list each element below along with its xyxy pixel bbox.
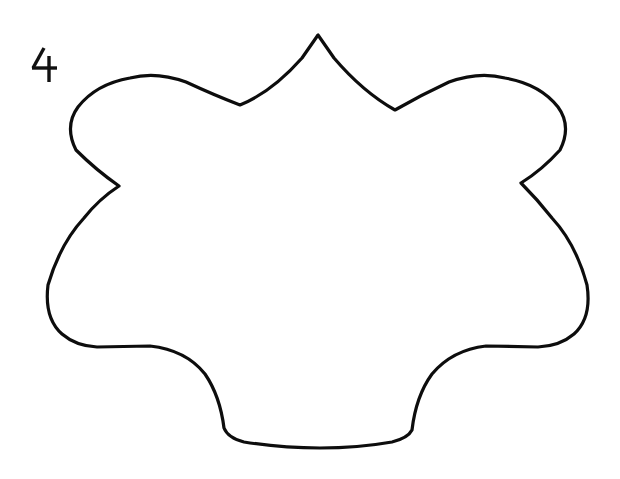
worksheet-canvas [0,0,620,479]
numeral-four-icon [30,46,60,84]
shape-drawing-area [0,0,620,479]
scalloped-star-outline-path [47,35,588,448]
numeral-four-diagonal-stroke [33,48,44,68]
figure-number-label [30,46,60,84]
